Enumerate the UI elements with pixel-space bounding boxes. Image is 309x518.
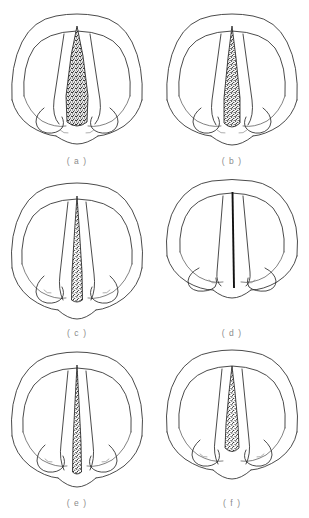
figure-panel-e: ( e ) — [0, 348, 154, 518]
panel-label-d: ( d ) — [155, 328, 309, 338]
figure-panel-f: ( f ) — [155, 348, 309, 518]
glottis-closed-line-d — [233, 192, 235, 288]
larynx-drawing-c — [0, 176, 154, 326]
glottis-aperture-b — [224, 26, 240, 127]
figure-sheet: ( a ) — [0, 0, 309, 518]
glottis-aperture-c — [72, 196, 83, 302]
panel-label-a: ( a ) — [0, 156, 154, 166]
larynx-drawing-f — [155, 348, 309, 498]
figure-panel-b: ( b ) — [155, 4, 309, 176]
panel-label-e: ( e ) — [0, 498, 154, 508]
panel-label-f: ( f ) — [155, 498, 309, 508]
figure-panel-c: ( c ) — [0, 176, 154, 348]
glottis-aperture-e — [73, 365, 82, 474]
larynx-drawing-b — [155, 4, 309, 154]
panel-label-b: ( b ) — [155, 156, 309, 166]
larynx-drawing-a — [0, 4, 154, 154]
glottis-aperture-f — [225, 366, 239, 452]
panel-label-c: ( c ) — [0, 328, 154, 338]
figure-panel-a: ( a ) — [0, 4, 154, 176]
figure-panel-d: ( d ) — [155, 176, 309, 348]
glottis-aperture-a — [66, 26, 88, 126]
larynx-drawing-d — [155, 176, 309, 326]
larynx-drawing-e — [0, 348, 154, 498]
